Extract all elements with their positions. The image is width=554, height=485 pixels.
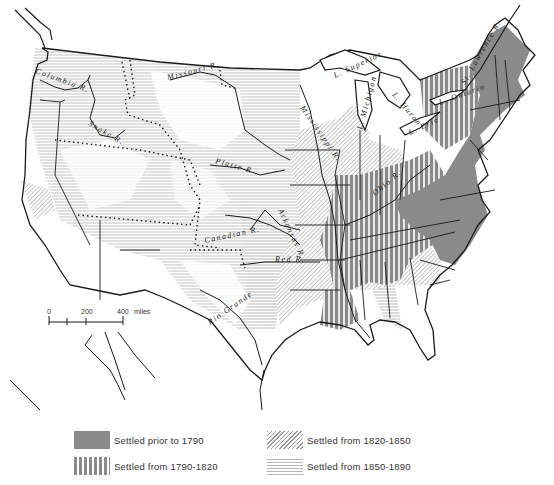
legend-item-prior-1790: Settled prior to 1790 [74, 431, 204, 449]
legend-label: Settled from 1820-1850 [307, 435, 411, 446]
legend-item-1850-1890: Settled from 1850-1890 [267, 457, 411, 475]
mexico-lines [10, 332, 264, 410]
legend-item-1820-1850: Settled from 1820-1850 [267, 431, 411, 449]
settlement-map: Columbia R. Snake R. Missouri R. Platte … [0, 0, 554, 420]
label-red-river: Red R. [274, 255, 305, 264]
scale-tick-0: 0 [47, 308, 51, 315]
scale-unit: miles [134, 308, 151, 315]
legend: Settled prior to 1790 Settled from 1790-… [0, 420, 554, 485]
swatch-solid-icon [74, 431, 110, 449]
scale-bar: 0 200 400 miles [47, 308, 151, 325]
scale-tick-200: 200 [81, 308, 93, 315]
region-prior-1790 [395, 25, 530, 265]
scale-tick-400: 400 [117, 308, 129, 315]
swatch-diagonal-lines-icon [267, 431, 303, 449]
swatch-vertical-lines-icon [74, 457, 110, 475]
legend-label: Settled from 1790-1820 [114, 461, 218, 472]
legend-item-1790-1820: Settled from 1790-1820 [74, 457, 218, 475]
swatch-horizontal-lines-icon [267, 457, 303, 475]
puget-sound [15, 8, 52, 48]
legend-label: Settled prior to 1790 [114, 435, 204, 446]
legend-label: Settled from 1850-1890 [307, 461, 411, 472]
